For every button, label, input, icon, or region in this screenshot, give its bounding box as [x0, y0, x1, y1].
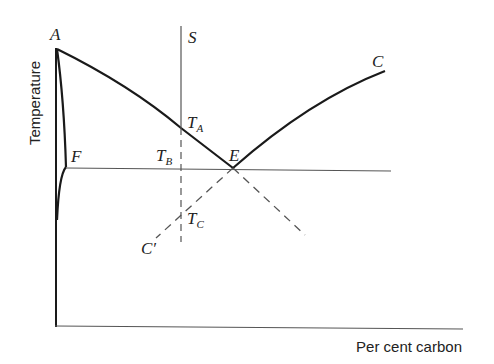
y-axis-label: Temperature [26, 61, 43, 145]
liquidus-EC [233, 71, 385, 168]
label-A: A [49, 25, 61, 44]
dashed-extension-A [233, 168, 305, 235]
phase-diagram: Temperature Per cent carbon A S C E F C′… [0, 0, 494, 364]
label-TC: TC [187, 209, 204, 230]
label-C-prime: C′ [141, 239, 156, 258]
label-TA: TA [187, 113, 203, 134]
label-C: C [372, 52, 384, 71]
label-F: F [70, 147, 82, 166]
x-axis [55, 326, 463, 329]
eutectic-line [66, 168, 391, 171]
x-axis-label: Per cent carbon [356, 338, 462, 355]
solidus-curve-AF [57, 49, 66, 167]
curve-F-down [57, 167, 66, 220]
label-E: E [228, 146, 240, 165]
label-TB: TB [156, 146, 172, 167]
label-S: S [188, 28, 197, 47]
liquidus-AE [57, 49, 233, 168]
